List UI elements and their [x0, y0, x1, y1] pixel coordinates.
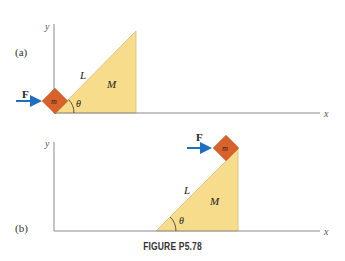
force-label-b: F	[196, 131, 203, 143]
incline-b	[156, 149, 238, 231]
length-label-b: L	[183, 184, 190, 196]
block-label-a: m	[51, 97, 57, 106]
mass-label-b: M	[209, 195, 220, 207]
force-label-a: F	[22, 88, 29, 100]
angle-label-b: θ	[179, 215, 184, 226]
length-label-a: L	[79, 69, 86, 81]
block-label-b: m	[222, 144, 228, 153]
panel-label-a: (a)	[15, 46, 28, 59]
x-axis-label-b: x	[323, 226, 329, 237]
y-axis-label-a: y	[44, 21, 50, 32]
panel-label-b: (b)	[15, 222, 28, 235]
angle-label-a: θ	[76, 98, 81, 109]
mass-label-a: M	[106, 78, 117, 90]
panel-a	[16, 24, 320, 114]
figure-caption: FIGURE P5.78	[26, 241, 319, 252]
figure-canvas: (a) y x F m L M θ (b) y x F m L M θ	[0, 0, 345, 261]
x-axis-label-a: x	[323, 108, 329, 119]
y-axis-label-b: y	[44, 138, 50, 149]
